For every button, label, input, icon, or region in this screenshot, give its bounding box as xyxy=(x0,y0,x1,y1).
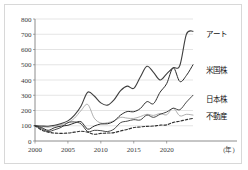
x-tick-label: 2020 xyxy=(160,146,175,154)
x-tick-label: 2000 xyxy=(28,146,43,154)
line-chart: 0100200300400500600700800200020052010201… xyxy=(5,5,241,163)
series-label: 不動産 xyxy=(206,111,227,121)
x-tick-label: 2010 xyxy=(94,146,109,154)
y-tick-label: 300 xyxy=(21,92,32,100)
series-label: アート xyxy=(206,30,227,39)
y-tick-label: 800 xyxy=(21,16,32,24)
y-tick-label: 200 xyxy=(21,107,32,115)
y-tick-label: 500 xyxy=(21,61,32,69)
x-tick-label: 2015 xyxy=(127,146,142,154)
y-tick-label: 400 xyxy=(21,77,32,85)
series-label: 米国株 xyxy=(206,65,228,75)
y-tick-label: 600 xyxy=(21,46,32,54)
x-tick-label: 2005 xyxy=(61,146,76,154)
series-label: 日本株 xyxy=(206,94,228,104)
y-tick-label: 700 xyxy=(21,31,32,39)
x-axis-unit-label: (年) xyxy=(223,145,234,154)
y-tick-label: 0 xyxy=(28,138,32,146)
y-tick-label: 100 xyxy=(21,122,32,130)
chart-frame: 0100200300400500600700800200020052010201… xyxy=(4,4,242,164)
